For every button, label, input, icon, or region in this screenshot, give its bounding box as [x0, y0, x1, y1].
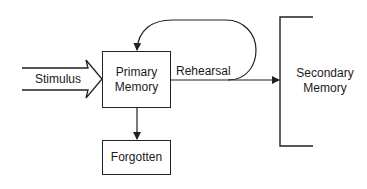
- rehearsal-label: Rehearsal: [176, 64, 231, 78]
- secondary-memory-label-line2: Memory: [290, 81, 360, 96]
- secondary-memory-label-line1: Secondary: [290, 66, 360, 81]
- primary-memory-box: Primary Memory: [102, 51, 171, 108]
- memory-model-diagram: Stimulus Primary Memory Rehearsal Forgot…: [0, 0, 367, 189]
- stimulus-label: Stimulus: [35, 72, 81, 86]
- forgotten-label: Forgotten: [111, 150, 162, 165]
- forgotten-box: Forgotten: [102, 140, 171, 175]
- secondary-memory-label: Secondary Memory: [290, 66, 360, 96]
- primary-memory-label-line1: Primary: [115, 65, 158, 80]
- primary-memory-label-line2: Memory: [115, 80, 158, 95]
